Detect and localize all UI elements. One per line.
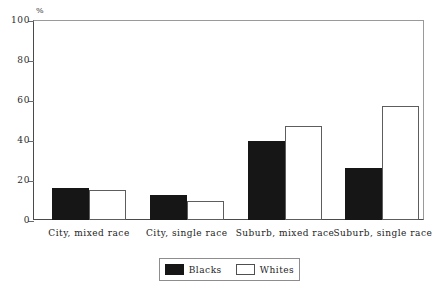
bar-group <box>150 20 224 220</box>
x-axis-category-labels: City, mixed raceCity, single raceSuburb,… <box>33 226 424 244</box>
bar-blacks-2 <box>150 195 187 220</box>
y-axis-tick-label: 100 <box>11 14 30 27</box>
legend-swatch-whites-icon <box>236 264 255 275</box>
bar-group <box>248 20 322 220</box>
y-axis-tick-label: 60 <box>17 94 30 107</box>
bar-blacks-4 <box>345 168 382 220</box>
bar-whites-4 <box>382 106 419 220</box>
y-axis-unit-label: % <box>36 6 44 15</box>
bars-layer <box>33 20 424 220</box>
chart-legend: Blacks Whites <box>159 258 300 281</box>
x-axis-label-1: City, mixed race <box>40 226 138 240</box>
y-axis-tick-label: 20 <box>17 174 30 187</box>
bar-blacks-1 <box>52 188 89 220</box>
x-axis-label-4: Suburb, single race <box>333 226 431 240</box>
bar-whites-1 <box>89 190 126 220</box>
legend-entry-blacks: Blacks <box>165 264 222 275</box>
y-axis-tick-label: 80 <box>17 54 30 67</box>
y-axis-tick-label: 40 <box>17 134 30 147</box>
legend-label-whites: Whites <box>260 265 295 275</box>
bar-chart-figure: % 020406080100 City, mixed raceCity, sin… <box>0 0 436 292</box>
x-axis-label-3: Suburb, mixed race <box>236 226 334 240</box>
bar-blacks-3 <box>248 141 285 220</box>
legend-entry-whites: Whites <box>236 264 295 275</box>
bar-group <box>52 20 126 220</box>
legend-label-blacks: Blacks <box>189 265 222 275</box>
bar-whites-2 <box>187 201 224 220</box>
y-axis-tick-label: 0 <box>24 214 30 227</box>
bar-group <box>345 20 419 220</box>
x-axis-label-2: City, single race <box>138 226 236 240</box>
bar-whites-3 <box>285 126 322 220</box>
legend-swatch-blacks-icon <box>165 264 184 275</box>
